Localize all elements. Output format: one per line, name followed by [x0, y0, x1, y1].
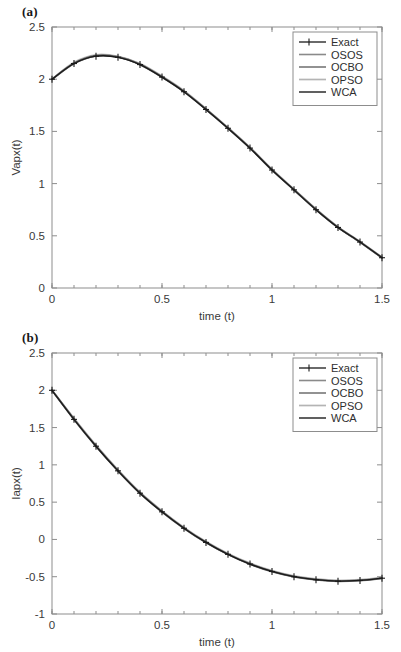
y-tick-label: 0	[39, 282, 45, 294]
y-tick-label: 2.5	[29, 347, 45, 359]
legend-entry-label: WCA	[331, 86, 357, 98]
x-tick-label: 0.5	[154, 619, 170, 631]
x-axis-title: time (t)	[199, 636, 235, 648]
y-tick-label: 0	[39, 533, 45, 545]
series-marker	[335, 578, 341, 585]
legend: ExactOSOSOCBOOPSOWCA	[293, 32, 377, 106]
y-tick-label: 1	[39, 459, 45, 471]
series-marker	[115, 54, 121, 61]
x-tick-label: 1	[269, 293, 275, 305]
y-tick-label: -0.5	[25, 571, 45, 583]
series-marker	[379, 575, 385, 582]
x-tick-label: 0.5	[154, 293, 170, 305]
legend-entry-label: Exact	[331, 362, 359, 374]
series-marker	[357, 577, 363, 584]
x-tick-label: 0	[49, 293, 55, 305]
series-marker	[313, 576, 319, 583]
figure-panel-a: (a) 00.511.500.511.522.5time (t)Vapx(t)E…	[0, 0, 401, 326]
series-marker	[269, 568, 275, 575]
legend-entry-label: OCBO	[331, 387, 364, 399]
x-axis-title: time (t)	[199, 310, 235, 322]
chart-b: 00.511.5-1-0.500.511.522.5time (t)Iapx(t…	[0, 326, 401, 652]
chart-a: 00.511.500.511.522.5time (t)Vapx(t)Exact…	[0, 0, 401, 326]
series-marker	[291, 573, 297, 580]
y-tick-label: 2.5	[29, 21, 45, 33]
x-tick-label: 0	[49, 619, 55, 631]
x-tick-label: 1.5	[374, 619, 390, 631]
y-axis-title: Iapx(t)	[10, 467, 22, 500]
y-axis-title: Vapx(t)	[10, 139, 22, 175]
legend-entry-label: WCA	[331, 412, 357, 424]
y-tick-label: 0.5	[29, 496, 45, 508]
legend-entry-label: OCBO	[331, 61, 364, 73]
legend-entry-label: Exact	[331, 36, 359, 48]
y-tick-label: 1.5	[29, 422, 45, 434]
y-tick-label: 2	[39, 73, 45, 85]
y-tick-label: 1.5	[29, 125, 45, 137]
y-tick-label: -1	[35, 608, 45, 620]
legend-entry-label: OPSO	[331, 400, 363, 412]
y-tick-label: 0.5	[29, 230, 45, 242]
y-tick-label: 1	[39, 178, 45, 190]
x-tick-label: 1.5	[374, 293, 390, 305]
x-tick-label: 1	[269, 619, 275, 631]
legend-entry-label: OSOS	[331, 49, 363, 61]
legend-entry-label: OPSO	[331, 74, 363, 86]
y-tick-label: 2	[39, 384, 45, 396]
legend: ExactOSOSOCBOOPSOWCA	[293, 358, 377, 432]
legend-entry-label: OSOS	[331, 375, 363, 387]
figure-panel-b: (b) 00.511.5-1-0.500.511.522.5time (t)Ia…	[0, 326, 401, 652]
